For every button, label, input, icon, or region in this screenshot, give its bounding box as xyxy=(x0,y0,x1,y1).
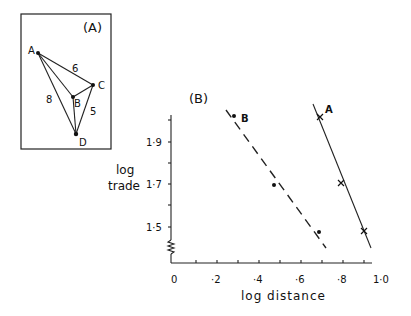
x-tick-0-8: ·8 xyxy=(337,274,347,285)
panel-a: (A) A B C D 6 8 5 xyxy=(21,14,111,149)
node-b-label: B xyxy=(74,98,81,109)
x-axis-label: log distance xyxy=(241,289,326,303)
edge-label-ad: 8 xyxy=(46,94,52,105)
y-axis-label-line1: log xyxy=(116,163,134,177)
axes xyxy=(168,115,372,263)
series-b-point xyxy=(232,114,236,118)
x-tick-0: 0 xyxy=(171,274,177,285)
node-a-label: A xyxy=(28,45,35,56)
x-tick-0-2: ·2 xyxy=(211,274,221,285)
panel-a-title: (A) xyxy=(83,20,102,35)
y-tick-1-9: 1·9 xyxy=(146,137,162,148)
series-a-line xyxy=(313,104,371,248)
series-a-label: A xyxy=(325,104,333,115)
node-d-label: D xyxy=(79,137,87,148)
node-a xyxy=(36,51,40,55)
figure: (A) A B C D 6 8 5 (B) xyxy=(0,0,411,316)
y-axis-label-line2: trade xyxy=(108,179,140,193)
y-tick-1-7: 1·7 xyxy=(146,179,162,190)
node-d xyxy=(74,132,78,136)
y-axis-break-icon xyxy=(168,240,174,254)
x-tick-0-6: ·6 xyxy=(295,274,305,285)
series-b-point xyxy=(272,183,276,187)
node-c xyxy=(91,83,95,87)
series-b-point xyxy=(317,230,321,234)
network-nodes xyxy=(36,51,95,136)
series-a-point xyxy=(338,180,344,186)
edge-label-cd: 5 xyxy=(90,106,96,117)
panel-b-title: (B) xyxy=(189,91,208,106)
edge-a-c xyxy=(38,53,93,85)
panel-b: (B) 1·9 1·7 1·5 xyxy=(108,91,389,303)
x-tick-0-4: ·4 xyxy=(253,274,263,285)
series-a-point xyxy=(361,228,367,234)
edge-label-ac: 6 xyxy=(72,63,78,74)
series-b-line xyxy=(226,110,326,248)
y-tick-1-5: 1·5 xyxy=(146,222,162,233)
series-b-points xyxy=(232,114,321,234)
series-b-label: B xyxy=(241,113,249,124)
node-c-label: C xyxy=(98,80,105,91)
x-tick-1-0: 1·0 xyxy=(373,274,389,285)
